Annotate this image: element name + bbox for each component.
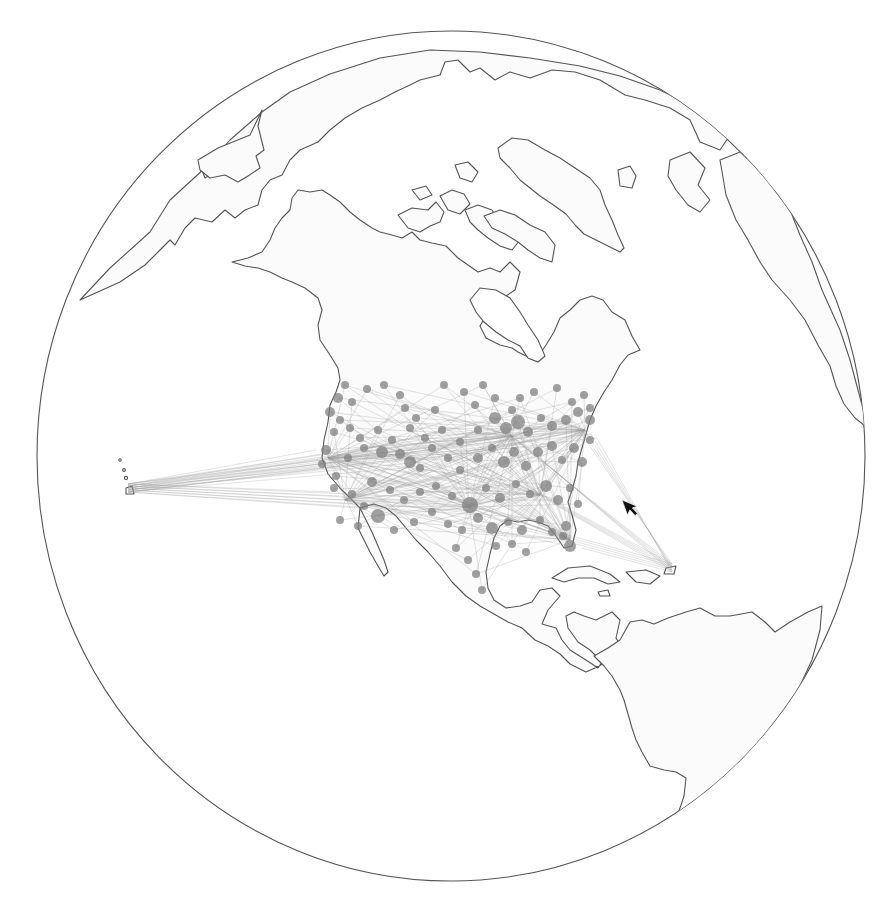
airport-marker[interactable] <box>400 496 408 504</box>
airport-marker[interactable] <box>504 518 512 526</box>
airport-marker[interactable] <box>558 456 566 464</box>
airport-marker[interactable] <box>486 522 498 534</box>
airport-marker[interactable] <box>341 381 349 389</box>
airport-marker[interactable] <box>530 388 538 396</box>
airport-marker[interactable] <box>456 438 464 446</box>
airport-marker[interactable] <box>472 570 480 578</box>
airport-marker[interactable] <box>410 518 418 526</box>
airport-marker[interactable] <box>559 532 567 540</box>
airport-marker[interactable] <box>360 502 368 510</box>
airport-marker[interactable] <box>416 488 424 496</box>
airport-marker[interactable] <box>348 398 356 406</box>
airport-marker[interactable] <box>553 384 561 392</box>
airport-marker[interactable] <box>367 477 377 487</box>
airport-marker[interactable] <box>517 525 527 535</box>
airport-marker[interactable] <box>479 381 487 389</box>
airport-marker[interactable] <box>580 391 588 399</box>
airport-marker[interactable] <box>448 492 456 500</box>
airport-marker[interactable] <box>509 447 519 457</box>
airport-marker[interactable] <box>428 508 436 516</box>
airport-marker[interactable] <box>512 480 520 488</box>
airport-marker[interactable] <box>395 449 405 459</box>
airport-marker[interactable] <box>388 436 396 444</box>
airport-marker[interactable] <box>473 453 483 463</box>
airport-marker[interactable] <box>344 454 352 462</box>
airport-marker[interactable] <box>553 495 563 505</box>
airport-marker[interactable] <box>491 394 499 402</box>
airport-marker[interactable] <box>566 484 574 492</box>
airport-marker[interactable] <box>456 466 464 474</box>
airport-marker[interactable] <box>498 456 510 468</box>
airport-marker[interactable] <box>474 426 482 434</box>
airport-marker[interactable] <box>548 528 556 536</box>
airport-marker[interactable] <box>325 407 335 417</box>
airport-marker[interactable] <box>482 484 490 492</box>
airport-marker[interactable] <box>462 497 478 513</box>
airport-marker[interactable] <box>547 421 557 431</box>
airport-marker[interactable] <box>336 516 344 524</box>
airport-marker[interactable] <box>473 513 483 523</box>
airport-marker[interactable] <box>511 415 525 429</box>
airport-marker[interactable] <box>444 520 452 528</box>
airport-marker[interactable] <box>500 422 512 434</box>
airport-marker[interactable] <box>564 540 576 552</box>
airport-marker[interactable] <box>478 586 486 594</box>
airport-marker[interactable] <box>585 415 595 425</box>
airport-marker[interactable] <box>536 516 544 524</box>
airport-marker[interactable] <box>586 404 594 412</box>
airport-marker[interactable] <box>489 412 501 424</box>
airport-marker[interactable] <box>508 406 516 414</box>
airport-marker[interactable] <box>318 460 326 468</box>
airport-marker[interactable] <box>336 416 344 424</box>
airport-marker[interactable] <box>380 381 388 389</box>
airport-marker[interactable] <box>416 464 424 472</box>
airport-marker[interactable] <box>348 490 356 498</box>
airport-marker[interactable] <box>390 526 398 534</box>
flight-map[interactable] <box>0 0 894 901</box>
airport-marker[interactable] <box>561 521 571 531</box>
airport-marker[interactable] <box>412 414 420 422</box>
airport-marker[interactable] <box>363 385 371 393</box>
airport-marker[interactable] <box>401 404 409 412</box>
airport-marker[interactable] <box>521 461 531 471</box>
airport-marker[interactable] <box>488 444 496 452</box>
globe-svg[interactable] <box>0 0 894 901</box>
airport-marker[interactable] <box>452 544 460 552</box>
airport-marker[interactable] <box>321 445 331 455</box>
airport-marker[interactable] <box>428 444 436 452</box>
airport-marker[interactable] <box>396 391 404 399</box>
airport-marker[interactable] <box>371 509 385 523</box>
airport-marker[interactable] <box>495 493 505 503</box>
airport-marker[interactable] <box>440 381 448 389</box>
airport-marker[interactable] <box>460 388 468 396</box>
airport-marker[interactable] <box>547 441 557 451</box>
airport-marker[interactable] <box>356 434 364 442</box>
airport-marker[interactable] <box>333 393 343 403</box>
airport-marker[interactable] <box>458 526 466 534</box>
airport-marker[interactable] <box>586 436 594 444</box>
airport-marker[interactable] <box>561 415 571 425</box>
airport-marker[interactable] <box>508 540 516 548</box>
airport-marker[interactable] <box>577 457 587 467</box>
airport-marker[interactable] <box>431 406 439 414</box>
airport-marker[interactable] <box>346 424 354 432</box>
airport-marker[interactable] <box>421 434 429 442</box>
airport-marker[interactable] <box>432 482 440 490</box>
airport-marker[interactable] <box>330 484 338 492</box>
airport-marker[interactable] <box>533 447 543 457</box>
airport-marker[interactable] <box>471 401 479 409</box>
airport-marker[interactable] <box>360 444 368 452</box>
airport-marker[interactable] <box>330 428 338 436</box>
airport-marker[interactable] <box>537 414 545 422</box>
airport-marker[interactable] <box>523 427 533 437</box>
airport-marker[interactable] <box>438 426 446 434</box>
airport-marker[interactable] <box>569 443 579 453</box>
airport-marker[interactable] <box>574 500 582 508</box>
airport-marker[interactable] <box>573 407 583 417</box>
airport-marker[interactable] <box>526 490 534 498</box>
airport-marker[interactable] <box>332 472 340 480</box>
airport-marker[interactable] <box>444 454 452 462</box>
airport-marker[interactable] <box>354 522 362 530</box>
airport-marker[interactable] <box>406 424 414 432</box>
airport-marker[interactable] <box>540 480 552 492</box>
